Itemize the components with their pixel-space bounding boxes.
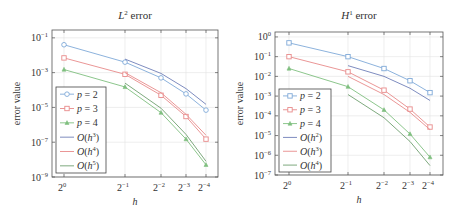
triangle-marker-icon bbox=[62, 67, 66, 71]
square-marker-icon bbox=[382, 88, 386, 92]
x-tick-exp: −4 bbox=[203, 181, 211, 188]
y-tick-base: 10 bbox=[254, 91, 264, 102]
y-tick-base: 10 bbox=[31, 102, 41, 113]
y-tick-base: 10 bbox=[254, 110, 264, 121]
y-tick-label: 10−9 bbox=[31, 171, 48, 183]
l2-error-chart: L2 error10−110−310−510−710−9202−12−22−32… bbox=[11, 9, 218, 207]
y-tick-base: 10 bbox=[31, 32, 41, 43]
triangle-marker-icon bbox=[382, 108, 386, 112]
y-tick-label: 100 bbox=[258, 30, 271, 42]
y-tick-exp: −7 bbox=[264, 169, 272, 176]
legend-paren: ) bbox=[319, 160, 322, 172]
y-axis-label: error value bbox=[234, 81, 245, 125]
legend-o: O bbox=[77, 146, 84, 157]
legend-label: O(h2) bbox=[300, 131, 322, 144]
y-tick-label: 10−5 bbox=[31, 101, 48, 113]
legend-eq: = bbox=[82, 117, 93, 128]
x-tick-label: 20 bbox=[58, 181, 66, 193]
title-main: L bbox=[117, 9, 124, 21]
legend-label: p = 3 bbox=[299, 104, 321, 115]
square-marker-icon bbox=[408, 79, 412, 83]
legend-label: p = 4 bbox=[299, 118, 321, 129]
title-rest: error bbox=[353, 9, 377, 21]
y-tick-base: 10 bbox=[254, 150, 264, 161]
y-tick-exp: −5 bbox=[264, 129, 271, 136]
legend-o: O bbox=[300, 160, 307, 171]
y-tick-label: 10−6 bbox=[254, 149, 272, 161]
legend-num: 3 bbox=[93, 103, 98, 114]
square-marker-icon bbox=[346, 54, 350, 58]
series-line bbox=[348, 95, 430, 166]
x-tick-exp: −4 bbox=[427, 179, 435, 186]
legend-label: O(h4) bbox=[300, 159, 322, 172]
y-tick-label: 10−7 bbox=[254, 169, 272, 181]
legend-num: 2 bbox=[316, 90, 321, 101]
x-tick-exp: −2 bbox=[158, 181, 165, 188]
h1-error-chart: H1 error10010−110−210−310−410−510−610−72… bbox=[234, 9, 443, 205]
chart-title: H1 error bbox=[340, 9, 377, 21]
y-tick-base: 10 bbox=[31, 172, 41, 183]
y-axis-label: error value bbox=[11, 81, 22, 125]
x-tick-exp: −3 bbox=[407, 179, 414, 186]
legend: p = 2p = 3p = 4O(h2)O(h3)O(h4) bbox=[279, 89, 331, 172]
triangle-marker-icon bbox=[159, 110, 163, 114]
series-p-2 bbox=[287, 41, 432, 95]
legend-eq: = bbox=[305, 118, 316, 129]
y-tick-label: 10−1 bbox=[254, 50, 271, 62]
series-O-4 bbox=[348, 95, 430, 166]
legend-eq: = bbox=[82, 103, 93, 114]
x-tick-exp: −1 bbox=[122, 181, 129, 188]
y-tick-exp: 0 bbox=[268, 30, 271, 37]
circle-marker-icon bbox=[123, 60, 128, 65]
x-tick-exp: 0 bbox=[63, 181, 66, 188]
y-tick-base: 10 bbox=[254, 170, 264, 181]
legend-label: O(h4) bbox=[77, 145, 99, 158]
x-tick-label: 20 bbox=[283, 179, 291, 191]
circle-marker-icon bbox=[65, 92, 70, 97]
y-tick-exp: −3 bbox=[41, 66, 48, 73]
y-tick-exp: −2 bbox=[264, 70, 271, 77]
x-tick-exp: −2 bbox=[381, 179, 388, 186]
y-tick-exp: −3 bbox=[264, 90, 271, 97]
legend-label: p = 4 bbox=[76, 117, 98, 128]
square-marker-icon bbox=[382, 66, 386, 70]
square-marker-icon bbox=[204, 137, 208, 141]
legend-paren: ) bbox=[319, 146, 322, 158]
title-rest: error bbox=[128, 9, 152, 21]
x-tick-exp: −1 bbox=[345, 179, 352, 186]
legend-o: O bbox=[300, 146, 307, 157]
figure: L2 error10−110−310−510−710−9202−12−22−32… bbox=[0, 0, 461, 211]
square-marker-icon bbox=[288, 94, 292, 98]
circle-marker-icon bbox=[204, 108, 209, 113]
triangle-marker-icon bbox=[287, 66, 291, 70]
legend-o: O bbox=[77, 160, 84, 171]
square-marker-icon bbox=[62, 56, 66, 60]
y-tick-label: 10−2 bbox=[254, 70, 271, 82]
legend-label: p = 2 bbox=[299, 90, 321, 101]
legend-paren: ) bbox=[96, 146, 99, 158]
y-tick-base: 10 bbox=[258, 31, 268, 42]
legend-paren: ) bbox=[96, 160, 99, 172]
legend-o: O bbox=[77, 132, 84, 143]
x-tick-label: 2−4 bbox=[198, 181, 211, 193]
legend-o: O bbox=[300, 132, 307, 143]
y-tick-exp: −4 bbox=[264, 109, 272, 116]
x-tick-label: 2−3 bbox=[178, 181, 190, 193]
y-tick-exp: −9 bbox=[41, 171, 48, 178]
x-tick-label: 2−1 bbox=[340, 179, 352, 191]
legend-label: p = 2 bbox=[76, 89, 98, 100]
y-tick-base: 10 bbox=[31, 67, 41, 78]
y-tick-exp: −6 bbox=[264, 149, 272, 156]
legend-paren: ) bbox=[96, 132, 99, 144]
y-tick-exp: −1 bbox=[41, 31, 48, 38]
y-tick-base: 10 bbox=[254, 130, 264, 141]
legend-num: 3 bbox=[316, 104, 321, 115]
square-marker-icon bbox=[287, 54, 291, 58]
square-marker-icon bbox=[287, 41, 291, 45]
x-axis-label: h bbox=[357, 194, 362, 205]
square-marker-icon bbox=[428, 90, 432, 94]
x-tick-label: 2−1 bbox=[117, 181, 129, 193]
circle-marker-icon bbox=[62, 42, 67, 47]
circle-marker-icon bbox=[159, 76, 164, 81]
y-tick-base: 10 bbox=[254, 71, 264, 82]
